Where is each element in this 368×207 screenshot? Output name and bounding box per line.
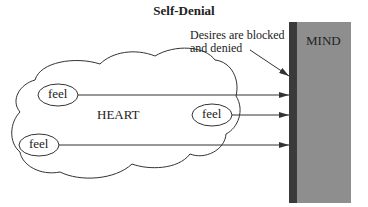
feel-label-1: feel [48,86,67,102]
mind-label: MIND [306,33,341,49]
feel-label-2: feel [202,106,221,122]
feel-label-3: feel [29,136,48,152]
diagram-canvas [0,0,368,207]
heart-label: HEART [97,107,140,123]
mind-box [297,22,351,203]
annotation-text: Desires are blocked and denied [190,29,285,55]
annotation-line-2: and denied [190,42,285,55]
diagram-title: Self-Denial [0,3,368,19]
wall [289,22,297,203]
